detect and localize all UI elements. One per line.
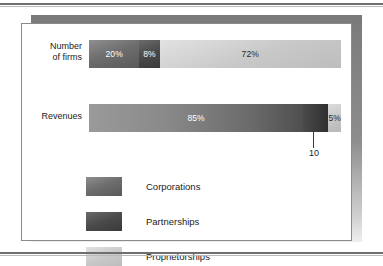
segment-value-firms-proprietorships: 72% <box>242 49 259 59</box>
segment-firms-corporations: 20% <box>89 40 139 68</box>
segment-revenues-proprietorships: 5% <box>328 104 341 132</box>
segment-revenues-corporations: 85% <box>89 104 303 132</box>
segment-firms-proprietorships: 72% <box>160 40 341 68</box>
segment-revenues-partnerships <box>303 104 328 132</box>
page-rule-bottom <box>0 252 383 254</box>
bar-revenues: 85% 5% <box>89 104 341 132</box>
page-rule-bottom-hairline <box>0 255 383 256</box>
legend-item-partnerships: Partnerships <box>86 207 210 235</box>
segment-firms-partnerships: 8% <box>139 40 159 68</box>
bar-number-of-firms: 20% 8% 72% <box>89 40 341 68</box>
legend-swatch-partnerships <box>86 212 122 231</box>
legend-item-proprietorships: Proprietorships <box>86 242 210 266</box>
legend-item-corporations: Corporations <box>86 172 210 200</box>
segment-value-revenues-corporations: 85% <box>187 113 204 123</box>
callout-leader-line <box>313 132 314 148</box>
row-label-number-of-firms: Number of firms <box>30 41 82 63</box>
figure-card: Number of firms 20% 8% 72% Revenues 85% … <box>21 23 352 241</box>
legend-swatch-proprietorships <box>86 247 122 266</box>
segment-value-firms-corporations: 20% <box>106 49 123 59</box>
stacked-bar-chart: Number of firms 20% 8% 72% Revenues 85% … <box>22 24 351 240</box>
segment-value-firms-partnerships: 8% <box>143 49 156 59</box>
callout-label-10: 10 <box>302 148 326 158</box>
legend-swatch-corporations <box>86 177 122 196</box>
legend-label-partnerships: Partnerships <box>146 216 199 227</box>
legend-label-corporations: Corporations <box>146 181 200 192</box>
row-label-revenues: Revenues <box>24 111 82 122</box>
page-rule-top <box>0 3 383 5</box>
segment-value-revenues-proprietorships: 5% <box>328 113 341 123</box>
page-rule-top-hairline <box>0 6 383 7</box>
